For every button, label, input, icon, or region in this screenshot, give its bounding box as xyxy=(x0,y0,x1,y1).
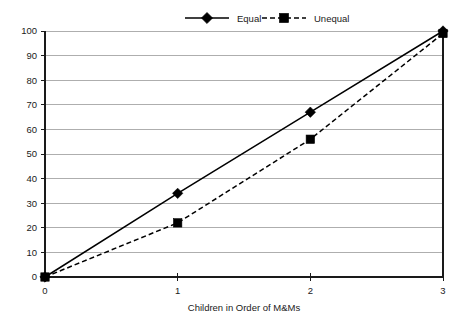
x-tick-label: 3 xyxy=(440,285,445,296)
y-tick-label: 40 xyxy=(26,173,37,184)
y-tick-label: 20 xyxy=(26,222,37,233)
chart-container: EqualUnequal 0102030405060708090100 0123… xyxy=(0,0,464,318)
y-tick-label: 0 xyxy=(32,271,37,282)
legend-label: Unequal xyxy=(314,13,349,24)
diamond-marker-icon xyxy=(201,12,212,23)
square-marker-icon xyxy=(439,29,447,37)
y-tick-label: 90 xyxy=(26,50,37,61)
y-tick-label: 80 xyxy=(26,75,37,86)
legend-label: Equal xyxy=(237,13,261,24)
square-marker-icon xyxy=(306,135,314,143)
y-tick-label: 30 xyxy=(26,198,37,209)
square-marker-icon xyxy=(41,273,49,281)
x-tick-label: 1 xyxy=(175,285,180,296)
legend-item[interactable]: Unequal xyxy=(262,13,349,24)
series-line xyxy=(45,33,443,277)
diamond-marker-icon xyxy=(172,188,182,198)
square-marker-icon xyxy=(173,219,181,227)
y-tick-label: 100 xyxy=(21,25,37,36)
x-tick-label: 0 xyxy=(42,285,47,296)
x-tick-label: 2 xyxy=(308,285,313,296)
y-tick-label: 60 xyxy=(26,124,37,135)
y-tick-label: 70 xyxy=(26,99,37,110)
square-marker-icon xyxy=(279,13,288,22)
chart-legend: EqualUnequal xyxy=(185,12,349,23)
y-tick-label: 50 xyxy=(26,148,37,159)
y-tick-label: 10 xyxy=(26,247,37,258)
line-chart: EqualUnequal 0102030405060708090100 0123… xyxy=(0,0,464,318)
legend-item[interactable]: Equal xyxy=(185,12,261,23)
diamond-marker-icon xyxy=(305,107,315,117)
x-axis-title: Children in Order of M&Ms xyxy=(188,302,301,313)
y-axis-tick-labels: 0102030405060708090100 xyxy=(21,25,45,282)
